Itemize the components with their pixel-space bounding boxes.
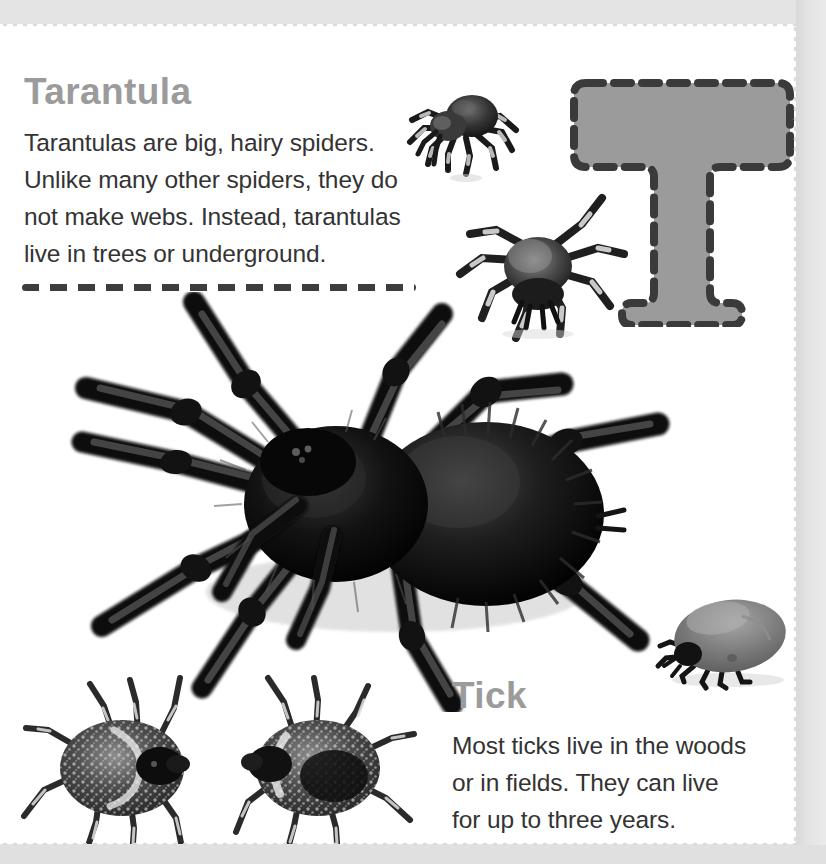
page-gutter-top [0,0,826,24]
tick-body-text: Most ticks live in the woods or in field… [452,727,782,838]
tarantula-heading: Tarantula [24,73,191,110]
tick-line-3: for up to three years. [452,801,782,838]
tarantula-line-1: Tarantulas are big, hairy spiders. [24,124,444,161]
tarantula-body-text: Tarantulas are big, hairy spiders. Unlik… [24,124,444,272]
tarantula-line-3: not make webs. Instead, tarantulas [24,198,444,235]
tarantula-line-2: Unlike many other spiders, they do [24,161,444,198]
tick-engorged-photo [646,582,796,692]
tarantula-line-4: live in trees or underground. [24,235,444,272]
tarantula-section-divider [22,284,416,291]
page-gutter-bottom [0,845,826,864]
page-sheet: Tarantula Tarantulas are big, hairy spid… [0,24,796,844]
book-page: Tarantula Tarantulas are big, hairy spid… [0,0,826,864]
tick-heading: Tick [452,677,527,714]
ticks-pair-photo [18,672,420,844]
tarantula-large-photo [46,292,686,712]
page-gutter-right [796,0,826,864]
tick-line-1: Most ticks live in the woods [452,727,782,764]
tick-line-2: or in fields. They can live [452,764,782,801]
